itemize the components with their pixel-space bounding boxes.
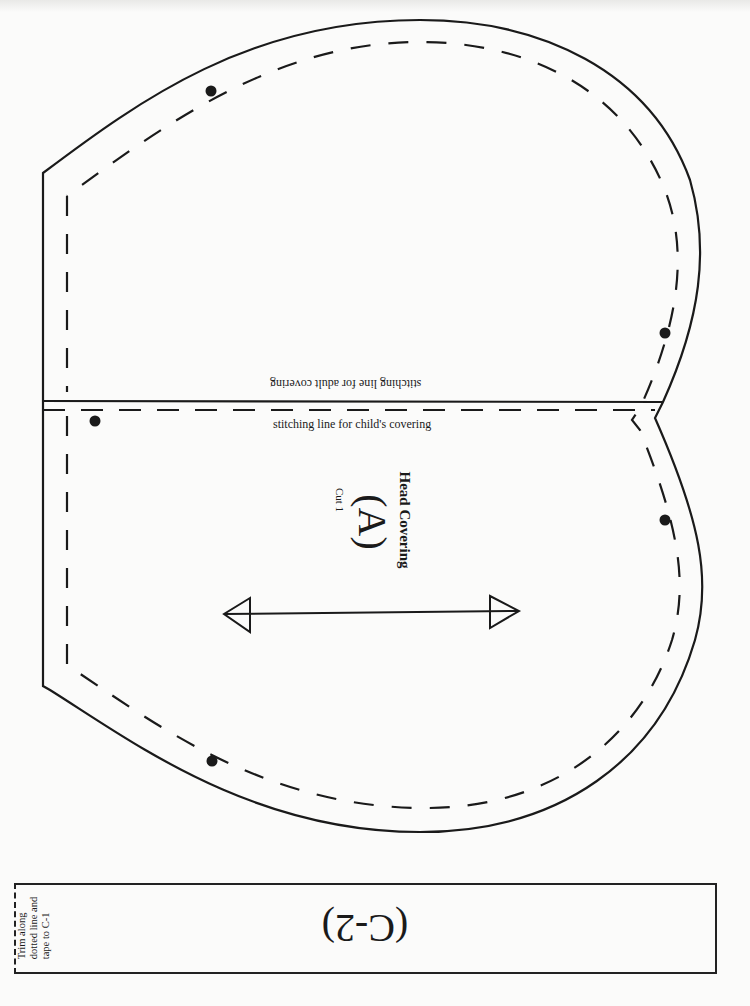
match-dot bbox=[90, 416, 101, 427]
cut-instruction: Cut 1 bbox=[334, 488, 346, 512]
trim-instruction: Trim along dotted line and tape to C-1 bbox=[16, 897, 52, 959]
page-id-label: (C-2) bbox=[322, 905, 409, 952]
match-dot bbox=[660, 515, 671, 526]
match-dot bbox=[207, 756, 218, 767]
match-dot bbox=[660, 328, 671, 339]
trim-instruction-line: dotted line and bbox=[28, 897, 40, 959]
adult-stitching-line bbox=[43, 401, 663, 402]
match-dot bbox=[206, 86, 217, 97]
child-stitching-label: stitching line for child's covering bbox=[273, 417, 431, 432]
trim-instruction-line: tape to C-1 bbox=[40, 897, 52, 959]
grainline-arrow-icon bbox=[224, 596, 519, 632]
adult-stitching-label: stitching line for adult covering bbox=[270, 376, 421, 391]
piece-title: Head Covering bbox=[396, 471, 413, 568]
trim-instruction-line: Trim along bbox=[16, 897, 28, 959]
piece-letter: (A) bbox=[349, 494, 396, 550]
